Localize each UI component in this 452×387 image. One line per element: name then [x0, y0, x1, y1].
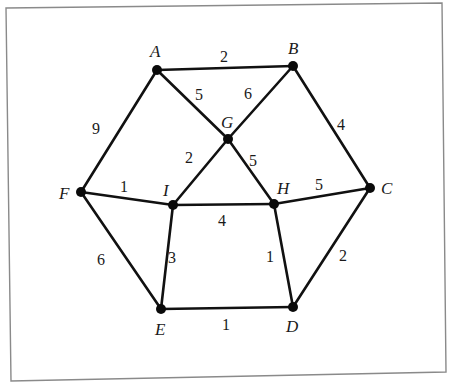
node-label-a: A — [149, 42, 161, 61]
node-labels-group: ABCDEFGHI — [58, 39, 393, 339]
node-b — [288, 61, 298, 71]
edge-i-h — [173, 204, 274, 205]
edge-e-d — [161, 307, 293, 309]
edge-c-d — [293, 188, 370, 307]
node-i — [168, 200, 178, 210]
edge-g-i — [173, 139, 228, 205]
edge-weight-g-h: 5 — [249, 152, 257, 169]
node-e — [156, 304, 166, 314]
edge-weight-g-i: 2 — [185, 149, 193, 166]
edge-b-c — [293, 66, 370, 188]
edge-weight-a-b: 2 — [220, 48, 228, 65]
node-label-f: F — [58, 184, 70, 203]
node-label-b: B — [288, 39, 299, 58]
edge-b-g — [228, 66, 293, 139]
edge-weight-h-c: 5 — [315, 176, 323, 193]
node-label-c: C — [381, 179, 393, 198]
node-d — [288, 302, 298, 312]
edge-weight-c-d: 2 — [339, 247, 347, 264]
edge-weight-i-e: 3 — [168, 249, 176, 266]
edge-weight-a-f: 9 — [92, 120, 100, 137]
edge-h-d — [274, 204, 293, 307]
node-f — [76, 187, 86, 197]
node-h — [269, 199, 279, 209]
node-label-i: I — [162, 181, 170, 200]
edge-weight-f-i: 1 — [120, 178, 128, 195]
node-label-e: E — [154, 320, 166, 339]
edge-weight-b-g: 6 — [244, 85, 252, 102]
edge-weight-a-g: 5 — [195, 86, 203, 103]
edge-weight-e-d: 1 — [222, 316, 230, 333]
edge-weight-f-e: 6 — [97, 251, 105, 268]
node-label-d: D — [285, 317, 299, 336]
node-label-h: H — [276, 179, 291, 198]
node-g — [223, 134, 233, 144]
edge-weight-b-c: 4 — [337, 116, 345, 133]
node-c — [365, 183, 375, 193]
node-label-g: G — [221, 113, 233, 132]
edge-weight-i-h: 4 — [218, 212, 226, 229]
edge-a-g — [157, 70, 228, 139]
edge-g-h — [228, 139, 274, 204]
edge-weight-h-d: 1 — [266, 248, 274, 265]
graph-diagram: 256492514563121 ABCDEFGHI — [0, 0, 452, 387]
edge-a-b — [157, 66, 293, 70]
node-a — [152, 65, 162, 75]
edge-f-e — [81, 192, 161, 309]
